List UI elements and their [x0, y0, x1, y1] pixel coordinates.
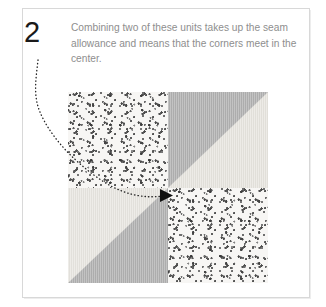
- step-number: 2: [24, 18, 40, 47]
- quilt-quadrant-top-left: [68, 92, 168, 188]
- quilt-quadrant-bottom-left: [68, 188, 168, 284]
- page-root: 2 Combining two of these units takes up …: [0, 0, 326, 307]
- step-instruction-label: Combining two of these units takes up th…: [71, 20, 326, 67]
- quilt-quadrant-top-right: [168, 92, 268, 188]
- step-instruction-text: Combining two of these units takes up th…: [71, 20, 326, 67]
- quilt-block-illustration: [68, 92, 268, 283]
- quilt-quadrant-bottom-right: [168, 188, 268, 284]
